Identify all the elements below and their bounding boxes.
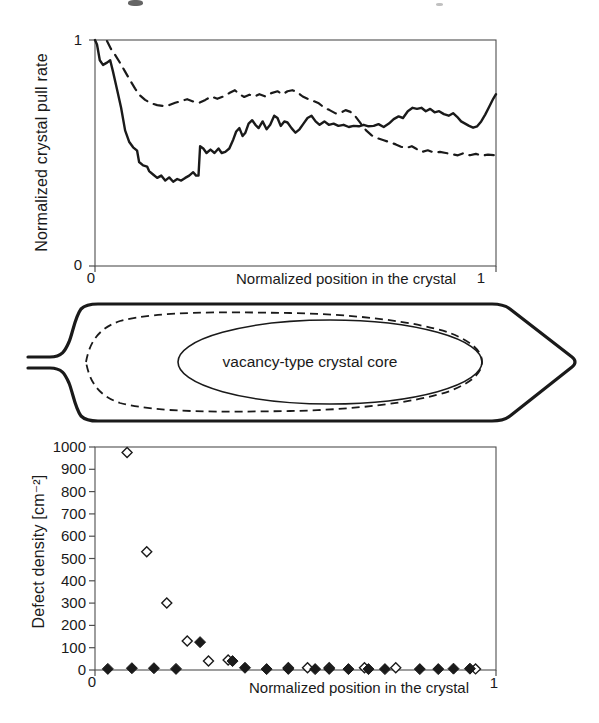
y-tick-label: 1000	[30, 439, 86, 455]
filled-diamond-point	[195, 637, 206, 648]
y-tick-label: 200	[30, 617, 86, 633]
filled-diamond-point	[324, 663, 335, 674]
filled-diamond-point	[148, 663, 159, 674]
top-chart-x-tick-1: 1	[474, 270, 488, 286]
filled-diamond-point	[171, 663, 182, 674]
filled-diamond-point	[433, 664, 444, 675]
plot-frame	[95, 447, 496, 670]
bottom-chart-x-axis-label: Normalized position in the crystal	[239, 680, 479, 696]
top-chart-y-tick-1: 1	[58, 32, 82, 48]
filled-diamond-point	[102, 663, 113, 674]
open-diamond-point	[142, 547, 152, 557]
bottom-chart-x-tick-0: 0	[85, 674, 99, 690]
open-diamond-point	[203, 656, 213, 666]
top-chart-y-tick-0: 0	[58, 257, 82, 273]
dashed-curve	[107, 41, 496, 156]
y-tick-label: 100	[30, 640, 86, 656]
y-tick-label: 700	[30, 506, 86, 522]
y-tick-label: 500	[30, 551, 86, 567]
filled-diamond-point	[379, 664, 390, 675]
filled-diamond-point	[239, 662, 250, 673]
top-chart-x-axis-label: Normalized position in the crystal	[226, 271, 466, 287]
open-diamond-point	[122, 448, 132, 458]
y-tick-label: 0	[30, 662, 86, 678]
filled-diamond-point	[310, 664, 321, 675]
plot-frame	[95, 40, 496, 266]
solid-curve	[95, 40, 496, 182]
y-tick-label: 900	[30, 461, 86, 477]
y-tick-label: 600	[30, 528, 86, 544]
filled-diamond-point	[414, 664, 425, 675]
filled-diamond-point	[448, 663, 459, 674]
open-diamond-point	[162, 598, 172, 608]
y-tick-label: 800	[30, 484, 86, 500]
filled-diamond-point	[126, 663, 137, 674]
open-diamond-point	[391, 663, 401, 673]
y-tick-label: 400	[30, 573, 86, 589]
top-chart-x-tick-0: 0	[84, 270, 98, 286]
filled-diamond-point	[343, 664, 354, 675]
y-tick-label: 300	[30, 595, 86, 611]
bottom-chart-x-tick-1: 1	[487, 675, 501, 691]
filled-diamond-point	[283, 663, 294, 674]
open-diamond-point	[182, 636, 192, 646]
top-chart-y-axis-label: Normalized crystal pull rate	[33, 38, 50, 268]
filled-diamond-point	[261, 664, 272, 675]
crystal-core-label: vacancy-type crystal core	[190, 353, 430, 370]
figure-page: Normalized crystal pull rate 1 0 0 Norma…	[0, 0, 599, 723]
